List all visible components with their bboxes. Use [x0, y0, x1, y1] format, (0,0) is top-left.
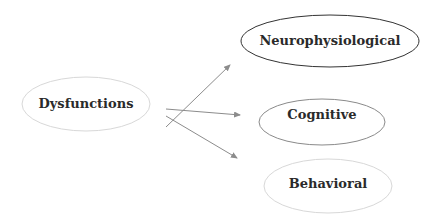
node-cognitive-shape [259, 99, 385, 145]
arrows [166, 65, 240, 158]
node-cognitive: Cognitive [259, 99, 385, 145]
node-neurophysiological: Neurophysiological [241, 15, 419, 67]
node-dysfunctions: Dysfunctions [22, 77, 150, 131]
node-neurophysiological-label: Neurophysiological [259, 33, 400, 48]
arrow-to-cognitive [166, 109, 240, 115]
diagram-canvas: Dysfunctions Neurophysiological Cognitiv… [0, 0, 442, 223]
node-cognitive-label: Cognitive [287, 107, 356, 122]
arrow-to-neurophysiological [166, 65, 230, 127]
arrow-to-behavioral [166, 116, 237, 158]
node-dysfunctions-label: Dysfunctions [39, 96, 134, 111]
node-behavioral-label: Behavioral [289, 176, 368, 191]
node-behavioral: Behavioral [264, 159, 392, 213]
